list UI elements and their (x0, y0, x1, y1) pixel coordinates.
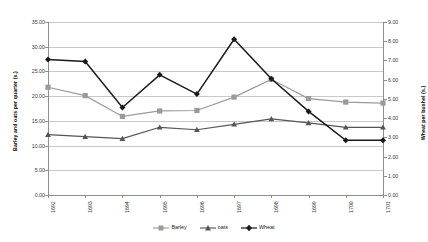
series-line (48, 119, 383, 139)
tickmark (384, 157, 387, 158)
legend-item-barley[interactable]: Barley (153, 224, 186, 232)
tickmark (384, 99, 387, 100)
tickmark (384, 41, 387, 42)
wheat-legend-marker-icon (241, 224, 257, 232)
series-group (48, 22, 384, 196)
y-axis-left-tick-label: 35.00 (17, 19, 45, 25)
y-axis-left-tick-label: 0.00 (17, 192, 45, 198)
data-point-marker (306, 96, 311, 101)
data-point-marker (380, 100, 385, 105)
line-chart: Barley and oats per quarter (s.) Wheat p… (0, 0, 428, 242)
tickmark (384, 176, 387, 177)
x-axis-tick-label: 1695 (162, 201, 168, 213)
oats-legend-marker-icon (200, 224, 216, 232)
tickmark (384, 22, 387, 23)
x-axis-tick-label: 1698 (273, 201, 279, 213)
y-axis-left-tick-label: 5.00 (17, 167, 45, 173)
y-axis-left-tick-label: 10.00 (17, 143, 45, 149)
x-axis-tick-label: 1699 (311, 201, 317, 213)
series-barley (45, 77, 385, 119)
legend-label-oats: oats (218, 225, 228, 230)
data-point-marker (157, 108, 162, 113)
barley-legend-marker-icon (153, 224, 169, 232)
legend-item-wheat[interactable]: Wheat (241, 224, 275, 232)
data-point-marker (343, 99, 348, 104)
legend-label-barley: Barley (171, 225, 186, 230)
x-axis-tick-label: 1700 (348, 201, 354, 213)
y-axis-right-title: Wheat per bushel (s.) (420, 68, 426, 158)
y-axis-left-tick-label: 20.00 (17, 93, 45, 99)
data-point-marker (120, 114, 125, 119)
y-axis-right-tick-label: 6.00 (388, 77, 416, 83)
data-point-marker (83, 93, 88, 98)
y-axis-left-tick-label: 15.00 (17, 118, 45, 124)
y-axis-right-tick-label: 9.00 (388, 19, 416, 25)
y-axis-left-tick-label: 30.00 (17, 44, 45, 50)
legend-label-wheat: Wheat (259, 225, 275, 230)
legend: Barley oats Wheat (0, 224, 428, 232)
y-axis-right-tick-label: 3.00 (388, 134, 416, 140)
series-line (48, 79, 383, 116)
data-point-marker (45, 85, 50, 90)
y-axis-right-tick-label: 8.00 (388, 38, 416, 44)
x-axis-tick-label: 1693 (87, 201, 93, 213)
tickmark (384, 118, 387, 119)
y-axis-right-tick-label: 2.00 (388, 154, 416, 160)
y-axis-right-tick-label: 5.00 (388, 96, 416, 102)
y-axis-right-tick-label: 0.00 (388, 192, 416, 198)
series-line (48, 39, 383, 140)
x-axis-tick-label: 1697 (236, 201, 242, 213)
x-axis-tick-label: 1692 (50, 201, 56, 213)
x-axis-tick-label: 1696 (199, 201, 205, 213)
x-axis-tick-label: 1701 (385, 201, 391, 213)
tickmark (384, 137, 387, 138)
y-axis-right-tick-label: 1.00 (388, 173, 416, 179)
data-point-marker (45, 56, 51, 62)
tickmark (384, 60, 387, 61)
data-point-marker (194, 108, 199, 113)
y-axis-right-tick-label: 7.00 (388, 57, 416, 63)
y-axis-left-tick-label: 25.00 (17, 68, 45, 74)
plot-area (48, 22, 384, 196)
legend-item-oats[interactable]: oats (200, 224, 228, 232)
series-oats (45, 116, 386, 141)
y-axis-right-tick-label: 4.00 (388, 115, 416, 121)
x-axis-tick-label: 1694 (124, 201, 130, 213)
tickmark (384, 195, 387, 196)
tickmark (384, 80, 387, 81)
data-point-marker (232, 95, 237, 100)
